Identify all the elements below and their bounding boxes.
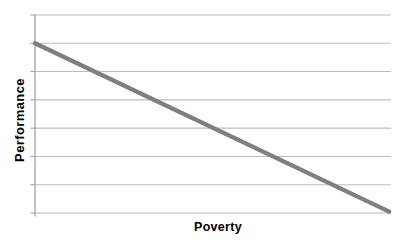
gridlines [31, 15, 392, 213]
x-axis-label: Poverty [194, 220, 242, 234]
performance-poverty-chart: Performance Poverty [0, 0, 403, 247]
trend-line [35, 43, 389, 211]
y-axis-label: Performance [12, 78, 27, 162]
plot-svg [0, 0, 403, 247]
